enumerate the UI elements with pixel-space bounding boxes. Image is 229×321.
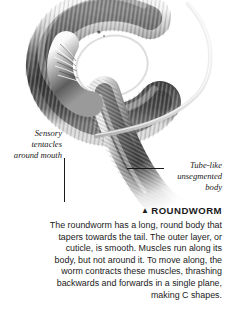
callout-line: unsegmented	[140, 171, 222, 182]
caption-title: ▲ROUNDWORM	[44, 205, 222, 217]
caption-title-text: ROUNDWORM	[151, 205, 222, 216]
leader-line-sensory-tentacles	[64, 158, 65, 202]
caption-block: ▲ROUNDWORM The roundworm has a long, rou…	[44, 205, 222, 301]
callout-line: body	[140, 182, 222, 193]
caption-body-text: The roundworm has a long, round body tha…	[44, 220, 222, 301]
callout-line: tentacles	[0, 139, 62, 150]
callout-line: Sensory	[0, 128, 62, 139]
callout-tube-like-body: Tube-like unsegmented body	[140, 160, 222, 194]
figure-page: Sensory tentacles around mouth Tube-like…	[0, 0, 229, 321]
callout-sensory-tentacles: Sensory tentacles around mouth	[0, 128, 62, 162]
triangle-marker-icon: ▲	[141, 205, 149, 217]
callout-line: around mouth	[0, 150, 62, 161]
callout-line: Tube-like	[140, 160, 222, 171]
